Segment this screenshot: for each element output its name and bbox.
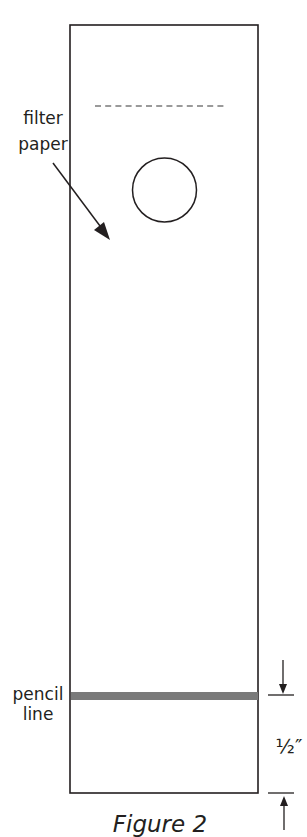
dimension-top-marker [268, 660, 294, 695]
dimension-bottom-marker [268, 793, 294, 830]
arrow-down-icon [279, 684, 287, 694]
arrow-up-icon [280, 796, 288, 806]
pencil-line [71, 692, 258, 700]
chromatography-diagram: filter paper pencil line ½″ Figure 2 [0, 0, 307, 837]
pencil-line-label-line1: pencil [13, 684, 64, 704]
figure-caption: Figure 2 [113, 811, 207, 837]
filter-paper-arrow-icon [53, 163, 110, 240]
filter-paper-strip [70, 25, 258, 793]
sample-circle [133, 158, 197, 222]
pencil-line-label-line2: line [23, 704, 54, 724]
filter-paper-label-line2: paper [18, 134, 67, 154]
dimension-value: ½″ [276, 734, 303, 758]
filter-paper-label-line1: filter [23, 108, 63, 128]
